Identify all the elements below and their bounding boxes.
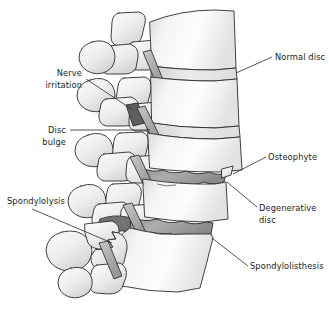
label-degenerative-disc-line1: Degenerative — [259, 203, 317, 213]
vertebral-body-2 — [151, 77, 239, 128]
label-disc-bulge-line2: bulge — [42, 137, 66, 147]
transverse-process-5 — [46, 231, 92, 271]
vertebral-body-4 — [143, 179, 228, 222]
spinous-process-5 — [58, 267, 92, 298]
spine-illustration-figure: Normal disc Nerve irritation Disc bulge … — [0, 0, 329, 309]
label-spondylolysis: Spondylolysis — [7, 196, 65, 206]
spine-anatomy-diagram: Normal disc Nerve irritation Disc bulge … — [0, 0, 329, 309]
label-nerve-irritation-line2: irritation — [45, 80, 82, 90]
leader-normal-disc — [236, 57, 272, 73]
label-spondylolisthesis: Spondylolisthesis — [250, 261, 324, 271]
label-degenerative-disc-line2: disc — [259, 215, 276, 225]
vertebral-body-3 — [148, 133, 242, 172]
label-osteophyte: Osteophyte — [268, 152, 317, 162]
slipped-vertebra — [118, 228, 214, 292]
label-nerve-irritation-line1: Nerve — [57, 68, 82, 78]
spinous-process-1 — [111, 12, 145, 46]
inferior-articular-process-5 — [89, 263, 127, 294]
label-normal-disc: Normal disc — [275, 52, 326, 62]
vertebral-body-1 — [150, 10, 236, 70]
leader-degenerative-disc — [227, 182, 257, 207]
label-disc-bulge-line1: Disc — [48, 125, 66, 135]
leader-spondylolisthesis — [212, 238, 248, 266]
transverse-process-1 — [79, 41, 115, 74]
